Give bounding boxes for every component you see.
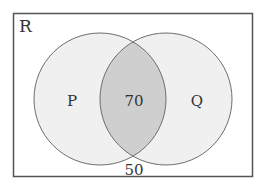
venn-diagram: R P Q 70 50 — [0, 0, 266, 190]
set-p-label: P — [67, 92, 77, 110]
universe-label: R — [19, 16, 33, 36]
intersection-value: 70 — [124, 92, 143, 110]
set-q-label: Q — [191, 92, 203, 110]
outside-value: 50 — [124, 161, 143, 179]
